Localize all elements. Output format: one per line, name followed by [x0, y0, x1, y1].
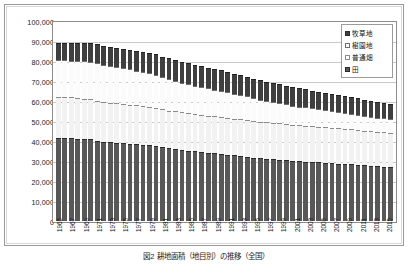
- bar-segment-pasture[interactable]: [69, 43, 74, 61]
- bar-segment-orchard[interactable]: [193, 86, 198, 114]
- bar-segment-pasture[interactable]: [303, 89, 308, 107]
- bar-segment-pasture[interactable]: [349, 97, 354, 114]
- bar-segment-pasture[interactable]: [75, 43, 80, 61]
- bar-segment-field[interactable]: [56, 97, 61, 138]
- legend-item-pasture[interactable]: 牧草地: [345, 27, 390, 39]
- stacked-bar[interactable]: [154, 54, 159, 221]
- stacked-bar[interactable]: [206, 68, 211, 221]
- bar-segment-pasture[interactable]: [310, 91, 315, 109]
- stacked-bar[interactable]: [134, 51, 139, 221]
- bar-segment-field[interactable]: [62, 97, 67, 138]
- bar-segment-paddy[interactable]: [375, 166, 380, 221]
- bar-segment-field[interactable]: [147, 107, 152, 145]
- stacked-bar[interactable]: [199, 66, 204, 221]
- stacked-bar[interactable]: [167, 58, 172, 221]
- bar-segment-paddy[interactable]: [141, 145, 146, 221]
- bar-segment-orchard[interactable]: [349, 114, 354, 130]
- bar-segment-field[interactable]: [297, 125, 302, 161]
- bar-segment-field[interactable]: [369, 131, 374, 166]
- bar-segment-field[interactable]: [388, 133, 393, 168]
- bar-segment-field[interactable]: [251, 121, 256, 158]
- bar-segment-paddy[interactable]: [69, 138, 74, 221]
- bar-segment-orchard[interactable]: [375, 118, 380, 132]
- bar-segment-field[interactable]: [303, 126, 308, 162]
- stacked-bar[interactable]: [297, 88, 302, 221]
- bar-segment-field[interactable]: [101, 102, 106, 142]
- stacked-bar[interactable]: [114, 48, 119, 221]
- bar-segment-paddy[interactable]: [101, 142, 106, 221]
- bar-segment-pasture[interactable]: [134, 51, 139, 71]
- bar-segment-paddy[interactable]: [167, 148, 172, 221]
- bar-segment-paddy[interactable]: [271, 159, 276, 221]
- bar-segment-paddy[interactable]: [245, 157, 250, 221]
- stacked-bar[interactable]: [375, 102, 380, 221]
- bar-segment-orchard[interactable]: [121, 68, 126, 104]
- stacked-bar[interactable]: [62, 43, 67, 221]
- bar-segment-field[interactable]: [108, 103, 113, 143]
- bar-segment-paddy[interactable]: [264, 159, 269, 221]
- stacked-bar[interactable]: [356, 98, 361, 221]
- bar-segment-orchard[interactable]: [251, 98, 256, 121]
- bar-segment-pasture[interactable]: [206, 68, 211, 89]
- bar-segment-field[interactable]: [186, 113, 191, 151]
- bar-segment-paddy[interactable]: [160, 147, 165, 221]
- bar-segment-paddy[interactable]: [238, 156, 243, 221]
- legend-item-field[interactable]: 普通畑: [345, 51, 390, 63]
- bar-segment-orchard[interactable]: [154, 75, 159, 108]
- bar-segment-paddy[interactable]: [336, 164, 341, 221]
- bar-segment-field[interactable]: [323, 127, 328, 163]
- bar-segment-pasture[interactable]: [121, 49, 126, 68]
- bar-segment-field[interactable]: [212, 116, 217, 153]
- bar-segment-orchard[interactable]: [362, 116, 367, 131]
- stacked-bar[interactable]: [82, 43, 87, 221]
- bar-segment-pasture[interactable]: [225, 72, 230, 92]
- stacked-bar[interactable]: [382, 103, 387, 221]
- bar-segment-pasture[interactable]: [316, 92, 321, 110]
- stacked-bar[interactable]: [303, 89, 308, 221]
- stacked-bar[interactable]: [180, 62, 185, 221]
- bar-segment-pasture[interactable]: [284, 86, 289, 105]
- stacked-bar[interactable]: [290, 87, 295, 221]
- bar-segment-paddy[interactable]: [258, 158, 263, 221]
- bar-segment-field[interactable]: [82, 99, 87, 139]
- bar-segment-pasture[interactable]: [238, 75, 243, 95]
- bar-segment-field[interactable]: [264, 122, 269, 158]
- bar-segment-field[interactable]: [114, 103, 119, 142]
- bar-segment-orchard[interactable]: [264, 101, 269, 123]
- stacked-bar[interactable]: [310, 91, 315, 221]
- bar-segment-orchard[interactable]: [238, 95, 243, 119]
- bar-segment-field[interactable]: [258, 122, 263, 159]
- legend-item-paddy[interactable]: 田: [345, 63, 390, 75]
- bar-segment-orchard[interactable]: [108, 66, 113, 103]
- bar-segment-pasture[interactable]: [251, 79, 256, 99]
- bar-segment-orchard[interactable]: [356, 115, 361, 130]
- bar-segment-orchard[interactable]: [141, 72, 146, 106]
- bar-segment-paddy[interactable]: [251, 158, 256, 221]
- bar-segment-pasture[interactable]: [160, 57, 165, 78]
- bar-segment-orchard[interactable]: [388, 119, 393, 132]
- stacked-bar[interactable]: [193, 65, 198, 221]
- bar-segment-orchard[interactable]: [186, 84, 191, 113]
- bar-segment-orchard[interactable]: [95, 63, 100, 101]
- bar-segment-orchard[interactable]: [134, 71, 139, 106]
- bar-segment-orchard[interactable]: [290, 106, 295, 125]
- bar-segment-pasture[interactable]: [277, 84, 282, 103]
- bar-segment-field[interactable]: [128, 105, 133, 144]
- bar-segment-field[interactable]: [375, 132, 380, 167]
- bar-segment-field[interactable]: [382, 132, 387, 167]
- bar-segment-field[interactable]: [167, 111, 172, 149]
- bar-segment-pasture[interactable]: [199, 66, 204, 87]
- bar-segment-paddy[interactable]: [323, 163, 328, 221]
- bar-segment-paddy[interactable]: [199, 152, 204, 221]
- bar-segment-pasture[interactable]: [264, 82, 269, 101]
- bar-segment-pasture[interactable]: [330, 94, 335, 111]
- bar-segment-paddy[interactable]: [121, 143, 126, 221]
- stacked-bar[interactable]: [362, 100, 367, 221]
- bar-segment-orchard[interactable]: [277, 103, 282, 123]
- bar-segment-orchard[interactable]: [258, 100, 263, 122]
- bar-segment-pasture[interactable]: [167, 58, 172, 79]
- bar-segment-pasture[interactable]: [232, 74, 237, 94]
- bar-segment-paddy[interactable]: [154, 146, 159, 221]
- stacked-bar[interactable]: [219, 70, 224, 221]
- stacked-bar[interactable]: [271, 83, 276, 221]
